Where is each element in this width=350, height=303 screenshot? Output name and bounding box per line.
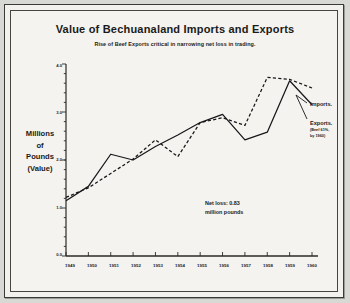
legend-note-exports: (Beef 61%, by 1960) <box>310 128 350 139</box>
legend-label-imports: Imports. <box>310 101 332 107</box>
annotation-line: Net loss: 0.83 <box>205 199 285 208</box>
legend-note-line: by 1960) <box>310 134 350 140</box>
annotation-line: million pounds <box>205 208 285 217</box>
axes <box>66 64 318 256</box>
legend-leader-lines <box>296 95 307 119</box>
annotation-net-loss: Net loss: 0.83 million pounds <box>205 199 285 217</box>
plot-area <box>0 0 350 303</box>
legend-label-exports: Exports. <box>310 120 332 126</box>
y-axis-ticks <box>62 64 66 256</box>
series-line-imports <box>66 77 312 197</box>
series-line-exports <box>66 81 312 201</box>
